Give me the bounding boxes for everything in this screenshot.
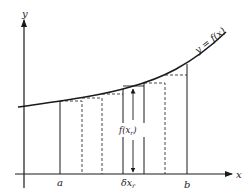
curve-label: y = f(x) (192, 25, 228, 56)
curve-f-of-x (18, 32, 226, 107)
integral-strip-diagram: y x f(xr) y = f(x) a b δxr (0, 0, 252, 196)
strip-height-label: f(xr) (118, 125, 136, 136)
y-axis-label: y (21, 8, 28, 19)
strip-width-label: δxr (121, 177, 136, 190)
lower-limit-label: a (57, 177, 63, 188)
upper-limit-label: b (184, 179, 190, 190)
ordinate-lines (60, 64, 187, 174)
x-axis-label: x (236, 169, 242, 180)
